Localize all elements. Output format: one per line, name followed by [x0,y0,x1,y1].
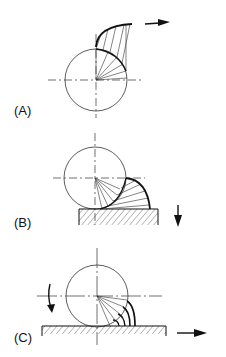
panel-b [53,133,182,227]
diagram: (A) (B) (C) [0,0,226,357]
ground-c [42,326,166,334]
panel-a [48,19,170,118]
label-a: (A) [14,103,31,118]
label-b: (B) [14,215,31,230]
panel-c [37,248,207,345]
arrow-right-a [145,23,160,24]
ground-b [79,209,158,225]
label-c: (C) [14,330,32,345]
diagram-svg [0,0,226,357]
